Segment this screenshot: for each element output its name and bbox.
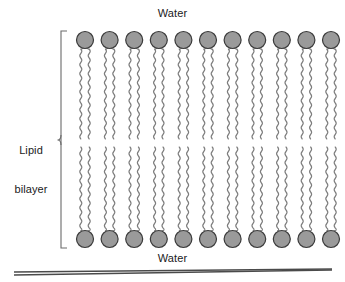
lipid-bilayer-diagram: Water Lipid bilayer Water [0, 0, 345, 282]
water-bottom-label: Water [0, 252, 345, 265]
baseline-group [14, 269, 332, 275]
baseline-rules [0, 0, 345, 282]
